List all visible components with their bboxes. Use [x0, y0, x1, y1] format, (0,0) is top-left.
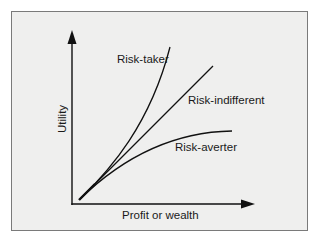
origin-overlap: [79, 184, 95, 200]
risk-indifferent-label: Risk-indifferent: [188, 94, 265, 106]
risk-averter-label: Risk-averter: [175, 141, 237, 153]
y-axis-arrow-icon: [68, 30, 77, 44]
x-axis-arrow-icon: [241, 200, 255, 209]
utility-diagram: Risk-taker Risk-indifferent Risk-averter…: [0, 0, 320, 246]
risk-indifferent-line: [80, 66, 213, 199]
x-axis: [71, 200, 255, 209]
risk-taker-label: Risk-taker: [117, 53, 169, 65]
y-axis: [68, 30, 77, 205]
x-axis-label: Profit or wealth: [122, 209, 199, 221]
y-axis-label: Utility: [56, 105, 68, 133]
